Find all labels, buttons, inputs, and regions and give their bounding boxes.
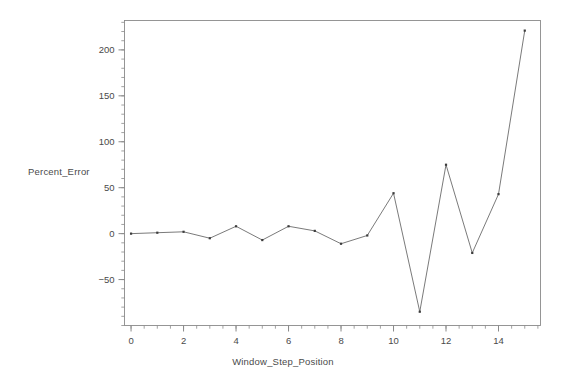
x-tick-label: 4 bbox=[233, 335, 238, 346]
x-tick-label: 0 bbox=[128, 335, 133, 346]
x-tick-label: 12 bbox=[441, 335, 452, 346]
data-point bbox=[182, 231, 184, 233]
data-point bbox=[366, 234, 368, 236]
y-tick-label: 50 bbox=[104, 182, 115, 193]
data-point-markers bbox=[130, 30, 526, 313]
data-point bbox=[497, 193, 499, 195]
plot-frame bbox=[125, 21, 541, 326]
x-axis-title: Window_Step_Position bbox=[0, 356, 566, 367]
data-point bbox=[130, 233, 132, 235]
x-tick-label: 10 bbox=[388, 335, 399, 346]
y-axis-title: Percent_Error bbox=[28, 166, 90, 177]
x-axis-minor-ticks bbox=[131, 326, 538, 329]
y-tick-label: 0 bbox=[109, 228, 114, 239]
x-tick-label: 6 bbox=[286, 335, 291, 346]
data-point bbox=[261, 239, 263, 241]
data-point bbox=[419, 311, 421, 313]
x-tick-label: 2 bbox=[181, 335, 186, 346]
y-axis-ticks: −50050100150200 bbox=[98, 44, 124, 285]
data-point bbox=[392, 192, 394, 194]
data-point bbox=[471, 252, 473, 254]
data-point bbox=[156, 232, 158, 234]
data-point bbox=[314, 230, 316, 232]
data-point bbox=[209, 237, 211, 239]
data-line-percent-error bbox=[131, 31, 525, 312]
data-point bbox=[524, 30, 526, 32]
x-axis-ticks: 02468101214 bbox=[128, 326, 503, 346]
x-tick-label: 14 bbox=[493, 335, 504, 346]
data-point bbox=[287, 225, 289, 227]
data-point bbox=[235, 225, 237, 227]
data-point bbox=[340, 243, 342, 245]
y-tick-label: 200 bbox=[99, 44, 115, 55]
x-tick-label: 8 bbox=[338, 335, 343, 346]
line-chart: −5005010015020002468101214 bbox=[0, 0, 566, 385]
y-tick-label: −50 bbox=[98, 274, 114, 285]
y-tick-label: 150 bbox=[99, 90, 115, 101]
chart-canvas: −5005010015020002468101214 Percent_Error… bbox=[0, 0, 566, 385]
data-point bbox=[445, 164, 447, 166]
y-tick-label: 100 bbox=[99, 136, 115, 147]
